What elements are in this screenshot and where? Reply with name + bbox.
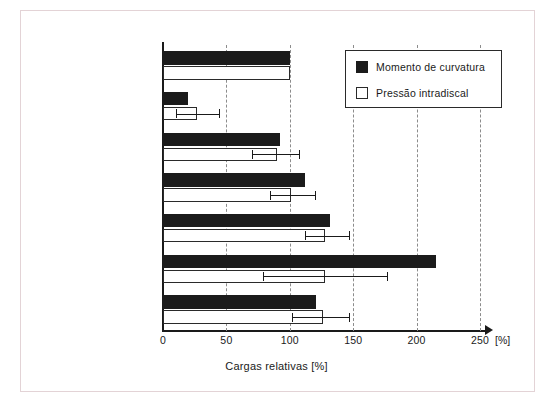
errorbar-cap-6-high — [349, 313, 350, 322]
x-tick-label-50: 50 — [220, 334, 232, 346]
x-tick-label-250: 250 — [471, 334, 489, 346]
errorbar-line-2 — [252, 154, 299, 155]
x-tick-label-100: 100 — [281, 334, 299, 346]
errorbar-line-4 — [305, 236, 349, 237]
errorbar-line-3 — [270, 195, 316, 196]
chart-legend: Momento de curvatura Pressão intradiscal — [345, 50, 502, 108]
errorbar-cap-1-low — [176, 109, 177, 118]
errorbar-line-5 — [263, 276, 387, 277]
errorbar-cap-5-low — [263, 272, 264, 281]
figure-bar-chart: 050100150200250 [%] Em péDecúbito dorsal… — [0, 0, 553, 400]
errorbar-cap-3-high — [315, 191, 316, 200]
errorbar-cap-4-high — [349, 231, 350, 240]
x-tick-label-0: 0 — [160, 334, 166, 346]
bar-momento-2 — [163, 133, 280, 147]
legend-label-momento-de-curvatura: Momento de curvatura — [376, 61, 485, 73]
errorbar-cap-1-high — [219, 109, 220, 118]
bar-momento-4 — [163, 214, 330, 228]
x-tick-label-200: 200 — [408, 334, 426, 346]
x-tick-label-150: 150 — [344, 334, 362, 346]
bar-momento-0 — [163, 51, 290, 65]
errorbar-line-1 — [176, 114, 219, 115]
x-axis-line — [162, 330, 487, 332]
errorbar-cap-2-low — [252, 150, 253, 159]
legend-swatch-light-icon — [356, 87, 368, 99]
errorbar-line-6 — [292, 317, 349, 318]
x-axis-unit-label: [%] — [495, 334, 510, 346]
bar-pressao-4 — [163, 229, 325, 243]
bar-momento-6 — [163, 295, 316, 309]
bar-pressao-0 — [163, 66, 290, 80]
errorbar-cap-4-low — [305, 231, 306, 240]
bar-momento-1 — [163, 92, 188, 106]
legend-label-pressao-intradiscal: Pressão intradiscal — [376, 87, 469, 99]
legend-item-pressao-intradiscal: Pressão intradiscal — [356, 86, 469, 100]
errorbar-cap-6-low — [292, 313, 293, 322]
errorbar-cap-2-high — [299, 150, 300, 159]
x-axis-title: Cargas relativas [%] — [0, 360, 553, 372]
legend-item-momento-de-curvatura: Momento de curvatura — [356, 60, 485, 74]
bar-momento-5 — [163, 255, 436, 269]
legend-swatch-dark-icon — [356, 61, 368, 73]
errorbar-cap-5-high — [387, 272, 388, 281]
y-axis-line — [162, 42, 164, 332]
bar-momento-3 — [163, 173, 305, 187]
errorbar-cap-3-low — [270, 191, 271, 200]
